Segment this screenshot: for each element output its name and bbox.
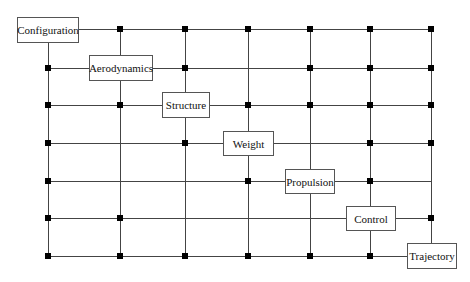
coupling-dot (307, 102, 313, 108)
coupling-dot (45, 178, 51, 184)
coupling-dot (245, 102, 251, 108)
coupling-dot (182, 65, 188, 71)
coupling-dot (428, 140, 434, 146)
coupling-dot (245, 253, 251, 259)
coupling-dot (307, 26, 313, 32)
node-trajectory: Trajectory (407, 243, 457, 269)
coupling-dot (45, 215, 51, 221)
coupling-dot (307, 253, 313, 259)
row-line (48, 181, 431, 182)
node-configuration: Configuration (17, 17, 79, 43)
coupling-dot (428, 26, 434, 32)
coupling-dot (45, 253, 51, 259)
coupling-dot (117, 215, 123, 221)
coupling-dot (367, 178, 373, 184)
coupling-dot (307, 65, 313, 71)
coupling-dot (117, 253, 123, 259)
coupling-dot (45, 102, 51, 108)
coupling-dot (245, 178, 251, 184)
coupling-dot (117, 102, 123, 108)
coupling-dot (182, 253, 188, 259)
coupling-dot (45, 65, 51, 71)
n2-diagram: Configuration Aerodynamics Structure Wei… (0, 0, 470, 282)
coupling-dot (117, 26, 123, 32)
coupling-dot (182, 26, 188, 32)
row-line (48, 105, 431, 106)
node-structure: Structure (162, 92, 210, 118)
coupling-dot (45, 140, 51, 146)
coupling-dot (367, 140, 373, 146)
node-aerodynamics: Aerodynamics (89, 55, 153, 81)
node-weight: Weight (223, 131, 274, 156)
coupling-dot (428, 215, 434, 221)
coupling-dot (367, 102, 373, 108)
node-control: Control (346, 206, 396, 231)
coupling-dot (245, 26, 251, 32)
coupling-dot (428, 65, 434, 71)
coupling-dot (367, 26, 373, 32)
column-line (310, 29, 311, 256)
row-line (48, 29, 431, 30)
node-propulsion: Propulsion (285, 169, 335, 194)
row-line (48, 256, 431, 257)
coupling-dot (367, 65, 373, 71)
coupling-dot (367, 253, 373, 259)
coupling-dot (182, 140, 188, 146)
coupling-dot (428, 102, 434, 108)
